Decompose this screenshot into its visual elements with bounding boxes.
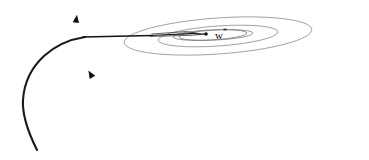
figure-root: w* xyxy=(0,0,369,160)
optimum-label-superscript: * xyxy=(223,27,227,36)
trajectory-group xyxy=(23,32,206,150)
trajectory-curve-main xyxy=(23,37,85,150)
arrow-head-1-ascending xyxy=(86,69,96,79)
trajectory-segment-into-contours xyxy=(83,36,152,38)
optimum-label-symbol: w xyxy=(215,29,223,41)
optimum-label: w* xyxy=(215,28,227,41)
convergence-diagram-svg xyxy=(0,0,369,160)
arrow-head-2-turning xyxy=(73,14,80,23)
optimum-point-marker xyxy=(204,32,208,36)
